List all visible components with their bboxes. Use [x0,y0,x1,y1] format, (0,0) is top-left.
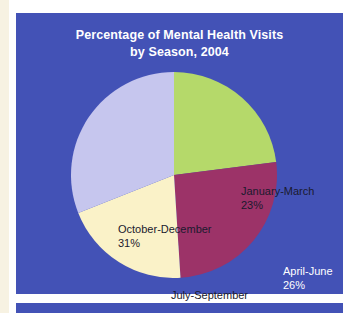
chart-panel: Percentage of Mental Health Visits by Se… [16,13,343,294]
pie-label-january-march-value: 23% [241,198,314,212]
page-left-margin [0,0,9,313]
next-panel-preview [16,303,343,313]
pie-label-april-june: April-June 26% [283,264,333,292]
pie-label-january-march: January-March 23% [241,184,314,212]
pie-label-april-june-name: April-June [283,265,333,277]
pie-label-january-march-name: January-March [241,185,314,197]
page-root: Percentage of Mental Health Visits by Se… [0,0,343,313]
pie-slice-january-march [174,72,276,175]
chart-title-line-1: Percentage of Mental Health Visits [76,28,283,42]
pie-label-october-december-name: October-December [118,223,212,235]
chart-title-line-2: by Season, 2004 [16,44,343,61]
pie-label-april-june-value: 26% [283,278,333,292]
page-left-gutter [9,0,16,313]
pie-slice-april-june [174,162,277,278]
chart-title: Percentage of Mental Health Visits by Se… [16,27,343,61]
pie-chart: January-March 23% April-June 26% July-Se… [71,72,277,278]
pie-label-october-december: October-December 31% [118,222,212,250]
pie-label-october-december-value: 31% [118,236,212,250]
pie-label-july-september-name: July-September [171,289,248,301]
